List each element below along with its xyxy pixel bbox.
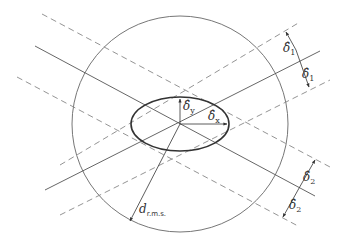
label-delta2-upper: δ̂2 (303, 170, 315, 186)
label-delta1-upper: δ̂1 (283, 41, 295, 57)
label-delta-y: δ̂y (183, 99, 195, 115)
label-delta1-lower: δ̂1 (302, 67, 314, 83)
label-delta2-lower: δ̂2 (289, 198, 301, 214)
dashed-line-1-lower (60, 80, 330, 215)
error-ellipse-diagram: δ̂1 δ̂1 δ̂2 δ̂2 δ̂y δ̂x dr.m.s. (0, 0, 349, 239)
label-d-rms: dr.m.s. (139, 202, 166, 218)
label-delta-x: δ̂x (208, 109, 220, 125)
solid-line-1 (45, 51, 320, 190)
dashed-line-1-upper (60, 22, 300, 165)
dashed-line-2-upper (42, 14, 330, 167)
